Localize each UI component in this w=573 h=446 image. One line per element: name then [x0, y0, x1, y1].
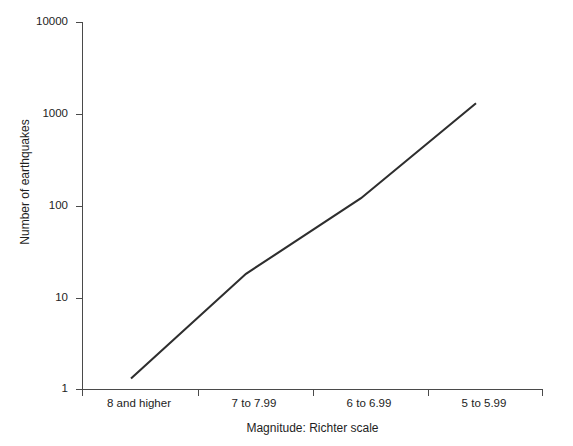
- y-tick-label-10000: 10000: [10, 16, 68, 28]
- y-tick-label-10: 10: [10, 292, 68, 304]
- y-tick-10000: [76, 22, 83, 23]
- x-tick-2: [313, 390, 314, 396]
- x-axis-title: Magnitude: Richter scale: [82, 421, 543, 435]
- earthquake-magnitude-chart: 10000 1000 100 10 1 8 and higher 7 to 7.…: [0, 0, 573, 446]
- y-tick-100: [76, 206, 83, 207]
- y-axis-title: Number of earthquakes: [18, 82, 32, 282]
- x-tick-3: [428, 390, 429, 396]
- series-line-chart: [0, 0, 573, 446]
- x-tick-label-7-to-799: 7 to 7.99: [232, 397, 277, 410]
- y-tick-10: [76, 298, 83, 299]
- x-tick-label-8-and-higher: 8 and higher: [107, 397, 171, 410]
- x-tick-label-6-to-699: 6 to 6.99: [347, 397, 392, 410]
- x-tick-1: [198, 390, 199, 396]
- y-tick-label-1: 1: [10, 383, 68, 395]
- y-tick-1000: [76, 114, 83, 115]
- series-polyline: [131, 103, 476, 378]
- x-tick-label-5-to-599: 5 to 5.99: [462, 397, 507, 410]
- x-tick-0: [82, 390, 83, 396]
- x-tick-4: [542, 390, 543, 396]
